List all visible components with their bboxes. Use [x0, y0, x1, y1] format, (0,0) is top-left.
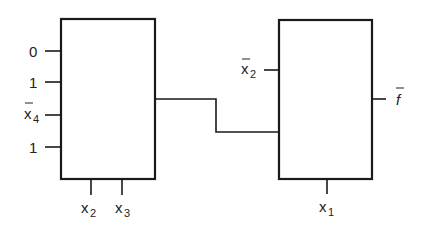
svg-text:2: 2	[250, 68, 256, 80]
svg-text:x: x	[24, 105, 32, 122]
left-input-1-label: 0	[29, 43, 37, 60]
left-bottom-input-2-label: x 3	[115, 199, 130, 219]
svg-text:x: x	[319, 198, 327, 215]
left-block	[61, 19, 155, 179]
svg-text:f: f	[396, 91, 402, 108]
svg-text:x: x	[115, 199, 123, 216]
left-bottom-input-1-label: x 2	[81, 199, 96, 219]
svg-text:x: x	[81, 199, 89, 216]
output-label: f	[396, 88, 404, 108]
svg-text:4: 4	[33, 113, 39, 125]
svg-text:2: 2	[90, 207, 96, 219]
left-input-2-label: 1	[29, 74, 37, 91]
left-input-4-label: 1	[29, 139, 37, 156]
right-block	[279, 20, 372, 179]
svg-text:1: 1	[328, 206, 334, 218]
connection-wire	[155, 99, 279, 132]
right-input-1-label: x 2	[241, 59, 256, 80]
circuit-diagram: 0 1 x 4 1 x 2 x 3 x 2 f x 1	[0, 0, 422, 237]
svg-text:3: 3	[124, 207, 130, 219]
svg-text:x: x	[241, 60, 249, 77]
left-input-3-label: x 4	[24, 103, 39, 125]
right-bottom-input-label: x 1	[319, 198, 334, 218]
